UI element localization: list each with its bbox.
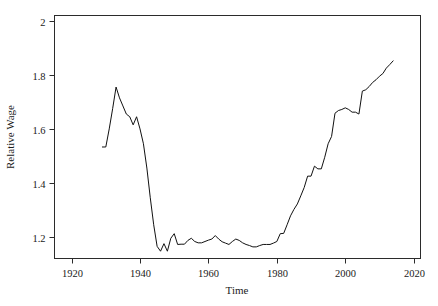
y-axis-ticks <box>50 22 55 238</box>
plot-frame <box>55 16 421 259</box>
y-tick-label-1.4: 1.4 <box>32 179 46 190</box>
y-axis-title: Relative Wage <box>4 105 16 169</box>
x-tick-label-1940: 1940 <box>130 268 151 279</box>
x-axis-tick-labels: 192019401960198020002020 <box>62 268 425 279</box>
y-tick-label-1.6: 1.6 <box>32 125 45 136</box>
x-axis-title: Time <box>226 284 249 296</box>
x-tick-label-1960: 1960 <box>198 268 219 279</box>
relative-wage-line-chart: 192019401960198020002020 1.21.41.61.82 T… <box>0 0 438 306</box>
chart-figure: 192019401960198020002020 1.21.41.61.82 T… <box>0 0 438 306</box>
y-tick-label-1.2: 1.2 <box>32 233 45 244</box>
y-axis-tick-labels: 1.21.41.61.82 <box>32 17 46 244</box>
x-tick-label-1980: 1980 <box>267 268 288 279</box>
x-tick-label-2000: 2000 <box>335 268 356 279</box>
x-axis-ticks <box>73 259 415 264</box>
data-series-relative-wage <box>102 61 393 251</box>
y-tick-label-2: 2 <box>40 17 45 28</box>
x-tick-label-1920: 1920 <box>62 268 83 279</box>
x-tick-label-2020: 2020 <box>404 268 425 279</box>
y-tick-label-1.8: 1.8 <box>32 71 45 82</box>
